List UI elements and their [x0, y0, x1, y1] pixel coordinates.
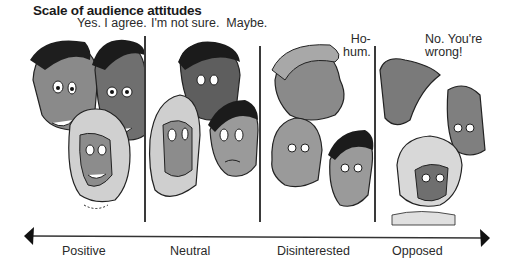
arrowhead-right-icon	[480, 229, 490, 247]
arrowhead-left-icon	[24, 227, 34, 245]
scale-label-positive: Positive	[62, 244, 106, 258]
scale-label-opposed: Opposed	[392, 244, 443, 258]
scale-label-disinterested: Disinterested	[277, 244, 350, 258]
attitude-scale-arrow	[0, 0, 513, 273]
scale-label-neutral: Neutral	[170, 244, 210, 258]
